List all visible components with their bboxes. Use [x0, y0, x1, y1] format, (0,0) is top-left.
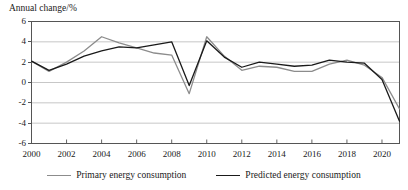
chart-legend: Primary energy consumptionPredicted ener…: [0, 167, 408, 183]
gridlines: [32, 42, 400, 123]
legend-line-icon: [47, 175, 71, 176]
legend-item[interactable]: Predicted energy consumption: [216, 170, 360, 181]
series-lines: [32, 37, 400, 121]
x-axis-tick-label: 2004: [85, 150, 119, 159]
x-axis-tick-label: 2014: [260, 150, 294, 159]
x-axis-tick-label: 2018: [330, 150, 364, 159]
x-axis-tick-label: 2000: [15, 150, 49, 159]
y-axis-title: Annual change/%: [9, 2, 77, 14]
x-axis-tick-label: 2016: [295, 150, 329, 159]
legend-item-label: Predicted energy consumption: [245, 170, 360, 181]
x-axis-ticks: [32, 140, 382, 144]
y-axis-tick-label: 2: [2, 58, 26, 67]
series-line: [32, 41, 400, 121]
y-axis-tick-label: 4: [2, 37, 26, 46]
x-axis-tick-label: 2010: [190, 150, 224, 159]
legend-item-label: Primary energy consumption: [76, 170, 186, 181]
x-axis-tick-label: 2020: [365, 150, 399, 159]
legend-item[interactable]: Primary energy consumption: [47, 170, 186, 181]
x-axis-tick-label: 2008: [155, 150, 189, 159]
y-axis-tick-label: -2: [2, 98, 26, 107]
y-axis-tick-label: -6: [2, 139, 26, 148]
energy-consumption-line-chart: Annual change/% 6420-2-4-6 2000200220042…: [0, 0, 408, 190]
y-axis-tick-label: -4: [2, 119, 26, 128]
y-axis-tick-label: 6: [2, 17, 26, 26]
x-axis-tick-label: 2002: [50, 150, 84, 159]
y-axis-tick-label: 0: [2, 78, 26, 87]
series-line: [32, 37, 400, 109]
plot-area: [31, 21, 400, 144]
x-axis-tick-label: 2012: [225, 150, 259, 159]
x-axis-tick-label: 2006: [120, 150, 154, 159]
legend-line-icon: [216, 175, 240, 176]
plot-svg: [31, 21, 400, 144]
